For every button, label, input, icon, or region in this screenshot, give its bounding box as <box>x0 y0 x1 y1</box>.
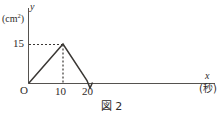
x-axis-unit-label: (秒) <box>199 84 217 94</box>
plot-polyline <box>29 44 93 88</box>
y-axis-name-label: y <box>30 2 34 12</box>
y-axis-unit-label: (cm2) <box>2 14 24 24</box>
x-tick-label-20: 20 <box>82 86 93 97</box>
figure-2-graph: (cm2) y 15 O 10 20 x (秒) 図 2 <box>0 0 223 118</box>
origin-label: O <box>20 85 28 96</box>
x-axis-name-label: x <box>205 71 209 81</box>
x-tick-label-10: 10 <box>55 86 66 97</box>
figure-caption: 図 2 <box>0 101 223 112</box>
y-tick-label-15: 15 <box>13 38 24 49</box>
